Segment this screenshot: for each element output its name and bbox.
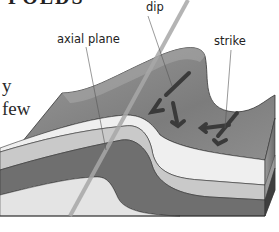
- label-strike: strike: [214, 34, 246, 48]
- label-axial-plane: axial plane: [57, 32, 120, 46]
- label-dip: dip: [146, 0, 164, 14]
- fold-diagram: FOLDS y few: [0, 0, 279, 232]
